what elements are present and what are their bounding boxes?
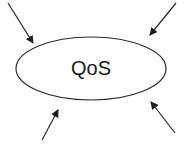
arrow-bottom-right bbox=[151, 102, 175, 133]
arrow-top-right bbox=[150, 3, 176, 35]
qos-label-text: QoS bbox=[71, 57, 111, 80]
arrow-bottom-left bbox=[42, 110, 58, 140]
qos-label: QoS bbox=[16, 37, 166, 100]
